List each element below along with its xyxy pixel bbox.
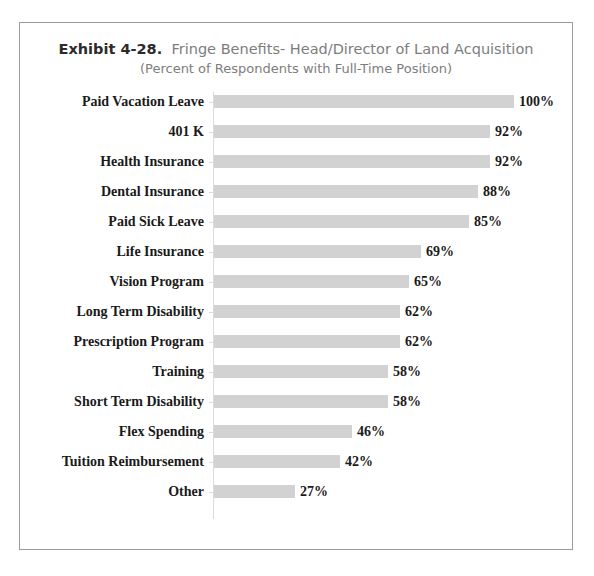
bar <box>214 245 421 258</box>
axis-tick <box>209 492 213 493</box>
plot-area: Paid Vacation Leave100%401 K92%Health In… <box>20 81 572 533</box>
category-label: 401 K <box>20 117 204 147</box>
bar-value-label: 88% <box>483 177 511 207</box>
axis-tick <box>209 342 213 343</box>
exhibit-number: Exhibit 4-28. <box>59 41 163 57</box>
bar-track: 62% <box>214 327 572 357</box>
axis-tick <box>209 402 213 403</box>
bar-track: 27% <box>214 477 572 507</box>
category-label: Short Term Disability <box>20 387 204 417</box>
category-label: Prescription Program <box>20 327 204 357</box>
bar-track: 100% <box>214 87 572 117</box>
bar <box>214 125 490 138</box>
page-title: Exhibit 4-28. Fringe Benefits- Head/Dire… <box>20 39 572 59</box>
bar-value-label: 100% <box>519 87 554 117</box>
axis-tick <box>209 132 213 133</box>
chart-subtitle: (Percent of Respondents with Full-Time P… <box>20 59 572 78</box>
bar <box>214 275 409 288</box>
bar <box>214 455 340 468</box>
bar-row: Tuition Reimbursement42% <box>20 447 572 477</box>
bar <box>214 395 388 408</box>
bar-value-label: 42% <box>345 447 373 477</box>
category-label: Tuition Reimbursement <box>20 447 204 477</box>
bar <box>214 95 514 108</box>
category-label: Training <box>20 357 204 387</box>
title-text: Fringe Benefits- Head/Director of Land A… <box>171 41 533 57</box>
category-label: Long Term Disability <box>20 297 204 327</box>
bar-row: Vision Program65% <box>20 267 572 297</box>
bar-row: Long Term Disability62% <box>20 297 572 327</box>
category-label: Paid Sick Leave <box>20 207 204 237</box>
bar-row: Prescription Program62% <box>20 327 572 357</box>
axis-tick <box>209 312 213 313</box>
bar-row: Short Term Disability58% <box>20 387 572 417</box>
bar-track: 42% <box>214 447 572 477</box>
axis-tick <box>209 282 213 283</box>
bar-track: 58% <box>214 357 572 387</box>
bar <box>214 425 352 438</box>
bar-value-label: 65% <box>414 267 442 297</box>
bar-row: Paid Sick Leave85% <box>20 207 572 237</box>
bar-track: 58% <box>214 387 572 417</box>
category-label: Vision Program <box>20 267 204 297</box>
category-label: Paid Vacation Leave <box>20 87 204 117</box>
category-label: Life Insurance <box>20 237 204 267</box>
bar-row: Health Insurance92% <box>20 147 572 177</box>
bar-track: 92% <box>214 147 572 177</box>
bar-row: Other27% <box>20 477 572 507</box>
bar-row: 401 K92% <box>20 117 572 147</box>
chart-frame: Exhibit 4-28. Fringe Benefits- Head/Dire… <box>19 22 573 550</box>
category-label: Flex Spending <box>20 417 204 447</box>
axis-tick <box>209 372 213 373</box>
category-label: Other <box>20 477 204 507</box>
bar-track: 69% <box>214 237 572 267</box>
bar <box>214 365 388 378</box>
chart-title-block: Exhibit 4-28. Fringe Benefits- Head/Dire… <box>20 39 572 78</box>
bar-row: Paid Vacation Leave100% <box>20 87 572 117</box>
axis-tick <box>209 432 213 433</box>
bar-row: Flex Spending46% <box>20 417 572 447</box>
axis-tick <box>209 222 213 223</box>
bar-value-label: 62% <box>405 327 433 357</box>
bar-row: Life Insurance69% <box>20 237 572 267</box>
bar-value-label: 85% <box>474 207 502 237</box>
bar <box>214 305 400 318</box>
bar-track: 92% <box>214 117 572 147</box>
bar-track: 88% <box>214 177 572 207</box>
bar-value-label: 58% <box>393 357 421 387</box>
bar-track: 46% <box>214 417 572 447</box>
axis-tick <box>209 252 213 253</box>
bar-row: Dental Insurance88% <box>20 177 572 207</box>
axis-tick <box>209 162 213 163</box>
bar-value-label: 92% <box>495 147 523 177</box>
bar-value-label: 62% <box>405 297 433 327</box>
bar-track: 85% <box>214 207 572 237</box>
bar <box>214 185 478 198</box>
bar-value-label: 27% <box>300 477 328 507</box>
bar-value-label: 58% <box>393 387 421 417</box>
bar-value-label: 69% <box>426 237 454 267</box>
category-label: Dental Insurance <box>20 177 204 207</box>
bar <box>214 215 469 228</box>
bar-value-label: 46% <box>357 417 385 447</box>
bar <box>214 335 400 348</box>
bar-row: Training58% <box>20 357 572 387</box>
bar-track: 62% <box>214 297 572 327</box>
bar-value-label: 92% <box>495 117 523 147</box>
axis-tick <box>209 192 213 193</box>
axis-tick <box>209 102 213 103</box>
category-label: Health Insurance <box>20 147 204 177</box>
bar <box>214 485 295 498</box>
bar-track: 65% <box>214 267 572 297</box>
axis-tick <box>209 462 213 463</box>
bar <box>214 155 490 168</box>
